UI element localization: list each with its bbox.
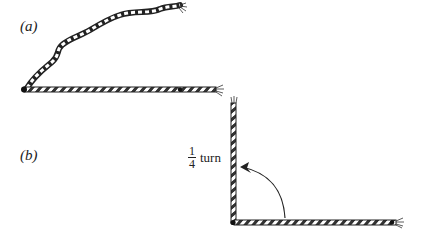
marker-knot-icon xyxy=(178,87,182,91)
panel-a-label: (a) xyxy=(20,18,38,35)
anchor-knot-icon xyxy=(21,87,27,93)
rotation-arc xyxy=(242,167,285,218)
arrowhead-icon xyxy=(240,162,251,173)
panel-b-label: (b) xyxy=(20,147,38,164)
anchor-knot-icon xyxy=(230,220,235,225)
fraction: 1 4 xyxy=(188,145,196,170)
rope-diagram xyxy=(0,0,440,245)
panel-a-rope xyxy=(21,3,224,96)
fraction-denominator: 4 xyxy=(189,158,195,170)
panel-b-rope xyxy=(230,96,404,228)
quarter-turn-annotation: 1 4 turn xyxy=(188,145,221,170)
marker-knot-icon xyxy=(390,220,394,224)
turn-word: turn xyxy=(200,150,221,166)
